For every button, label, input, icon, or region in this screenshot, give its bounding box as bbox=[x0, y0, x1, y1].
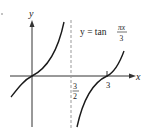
function-label-lhs: y = tan bbox=[80, 27, 107, 37]
tangent-graph: y x y = tan πx 3 3 2 3 bbox=[0, 0, 144, 137]
stray-mark bbox=[1, 13, 3, 15]
asymptote-label-numerator: 3 bbox=[73, 82, 77, 91]
y-axis-label: y bbox=[28, 8, 34, 19]
asymptote-label-denominator: 2 bbox=[73, 92, 77, 101]
function-label-denominator: 3 bbox=[120, 34, 124, 43]
function-label-numerator: πx bbox=[118, 23, 126, 32]
x-axis-label: x bbox=[135, 71, 141, 82]
x-tick-label-3: 3 bbox=[106, 80, 110, 90]
x-axis-arrow-icon bbox=[129, 74, 136, 79]
tangent-curve-left-branch bbox=[11, 22, 64, 97]
y-axis-arrow-icon bbox=[30, 20, 35, 27]
tangent-curve-right-branch bbox=[77, 51, 124, 127]
